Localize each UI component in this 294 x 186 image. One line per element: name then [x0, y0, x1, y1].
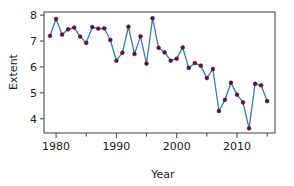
data-point [253, 82, 257, 86]
data-point [205, 76, 209, 80]
y-tick-label: 7 [30, 35, 37, 48]
data-point [108, 38, 112, 42]
x-axis-title: Year [150, 168, 175, 181]
plot-area-border [44, 12, 275, 133]
data-point [72, 26, 76, 30]
data-point [60, 33, 64, 37]
series-line [50, 18, 267, 128]
data-point [187, 66, 191, 70]
data-point [48, 34, 52, 38]
y-tick-label: 5 [30, 87, 37, 100]
data-point [139, 34, 143, 38]
x-tick-label: 2000 [163, 140, 191, 153]
data-point [211, 67, 215, 71]
y-tick-label: 8 [30, 9, 37, 22]
data-point [145, 62, 149, 66]
x-tick-label: 2010 [223, 140, 251, 153]
data-point [181, 46, 185, 50]
data-point [175, 57, 179, 61]
data-point [247, 126, 251, 130]
data-point [241, 101, 245, 105]
data-point [133, 52, 137, 56]
data-point [199, 64, 203, 68]
data-point [127, 25, 131, 29]
data-point [157, 46, 161, 50]
data-point [90, 25, 94, 29]
data-point [223, 98, 227, 102]
data-point [121, 51, 125, 55]
chart-figure: 45678 1980199020002010 Extent Year [0, 0, 294, 186]
data-point [114, 59, 118, 63]
y-tick-label: 4 [30, 113, 37, 126]
data-point [265, 99, 269, 103]
data-point [193, 61, 197, 65]
y-tick-label: 6 [30, 61, 37, 74]
y-axis-title: Extent [7, 53, 20, 90]
data-point [259, 83, 263, 87]
data-point [96, 27, 100, 31]
data-point [229, 81, 233, 85]
data-point [66, 27, 70, 31]
line-chart: 45678 1980199020002010 Extent Year [0, 0, 294, 186]
x-tick-label: 1990 [102, 140, 130, 153]
data-point [78, 35, 82, 39]
x-tick-label: 1980 [42, 140, 70, 153]
data-point [235, 93, 239, 97]
data-point [217, 109, 221, 113]
data-point [102, 26, 106, 30]
data-point [163, 51, 167, 55]
data-point [54, 17, 58, 21]
data-point [169, 59, 173, 63]
data-point [84, 41, 88, 45]
data-point [151, 16, 155, 20]
